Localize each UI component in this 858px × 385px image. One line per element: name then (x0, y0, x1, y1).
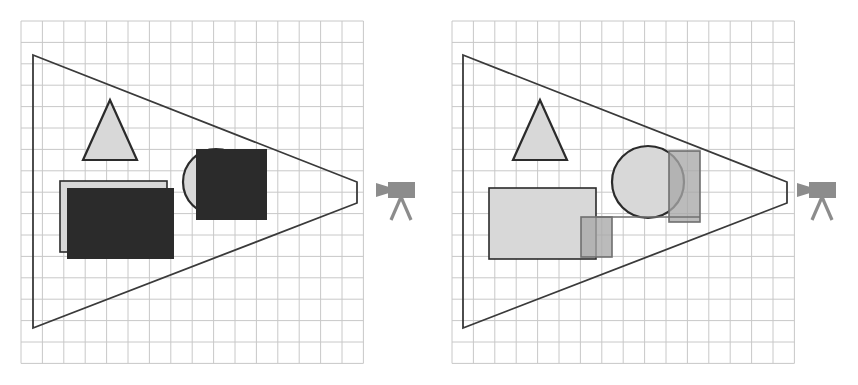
figure-svg (0, 0, 858, 385)
camera-tripod-leg-right (401, 197, 411, 220)
camera-lens-triangle (376, 183, 389, 197)
dark-rectangle (67, 188, 174, 259)
camera-lens-triangle (797, 183, 810, 197)
camera-tripod-leg-left (391, 197, 401, 220)
camera-icon (376, 182, 415, 220)
circle-square (196, 149, 267, 220)
camera-body-rectangle (809, 182, 836, 198)
circle-square (669, 151, 700, 222)
small-square (581, 217, 612, 257)
camera-tripod-leg-left (812, 197, 822, 220)
figure-root (0, 0, 858, 385)
panel-occluded-view (21, 21, 415, 363)
camera-body-rectangle (388, 182, 415, 198)
panel-transparent-view (452, 21, 836, 363)
outline-rectangle (489, 188, 596, 259)
triangle (83, 100, 137, 160)
camera-tripod-leg-right (822, 197, 832, 220)
camera-icon (797, 182, 836, 220)
